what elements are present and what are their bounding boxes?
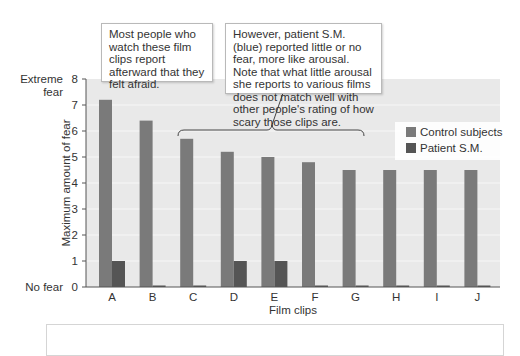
x-tick-label: D <box>230 291 238 303</box>
callout-afraid: Most people who watch these film clips r… <box>101 23 213 82</box>
x-tick-label: C <box>189 291 197 303</box>
legend-label-control: Control subjects <box>420 126 503 138</box>
legend: Control subjects Patient S.M. <box>395 122 512 160</box>
legend-swatch-control <box>406 127 416 137</box>
y-tick-label: 4 <box>72 177 79 189</box>
legend-swatch-patient <box>406 143 416 153</box>
bar-control <box>261 157 274 287</box>
bar-control <box>464 170 477 287</box>
bar-control <box>180 139 193 287</box>
bar-control <box>383 170 396 287</box>
no-fear-label: No fear <box>25 281 63 293</box>
y-tick-label: 3 <box>72 203 78 215</box>
y-tick-label: 5 <box>72 151 78 163</box>
x-axis: ABCDEFGHIJ <box>86 287 500 303</box>
x-tick-label: I <box>435 291 438 303</box>
y-tick-label: 0 <box>72 281 78 293</box>
bar-patient <box>112 261 125 287</box>
x-tick-label: H <box>392 291 400 303</box>
y-tick-label: 1 <box>72 255 78 267</box>
caption-box <box>46 324 504 356</box>
bar-patient <box>274 261 287 287</box>
bar-patient <box>234 261 247 287</box>
bar-control <box>424 170 437 287</box>
y-axis-title: Maximum amount of fear <box>60 119 72 246</box>
y-axis: 012345678 <box>72 73 86 293</box>
x-tick-label: G <box>351 291 360 303</box>
bar-control <box>343 170 356 287</box>
x-tick-label: A <box>108 291 116 303</box>
x-axis-title: Film clips <box>269 304 317 316</box>
y-tick-label: 7 <box>72 99 78 111</box>
bar-control <box>221 152 234 287</box>
y-tick-label: 8 <box>72 73 78 85</box>
callout-patient-sm: However, patient S.M. (blue) reported li… <box>225 23 382 94</box>
y-tick-label: 2 <box>72 229 78 241</box>
bar-control <box>302 162 315 287</box>
extreme-fear-label-2: fear <box>43 86 63 98</box>
bar-control <box>140 121 153 287</box>
extreme-fear-label: Extreme <box>20 73 63 85</box>
y-tick-label: 6 <box>72 125 78 137</box>
x-tick-label: F <box>311 291 318 303</box>
x-tick-label: J <box>475 291 481 303</box>
bar-control <box>99 100 112 287</box>
x-tick-label: B <box>149 291 157 303</box>
legend-label-patient: Patient S.M. <box>420 142 483 154</box>
x-tick-label: E <box>271 291 279 303</box>
